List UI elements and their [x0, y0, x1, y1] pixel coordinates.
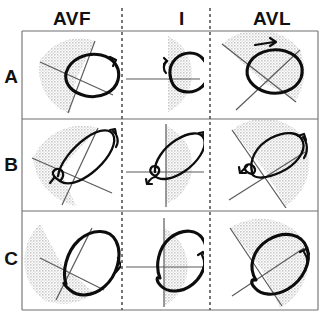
cell-b-avf [32, 126, 118, 206]
knot-arrow-b-i [148, 177, 156, 183]
cell-a-i [126, 36, 208, 112]
column-header-i: I [179, 8, 185, 29]
cell-b-i [126, 124, 208, 207]
cell-b-avl [229, 119, 309, 208]
cell-c-avf [24, 224, 121, 304]
rotation-arrow-c-i [202, 255, 204, 272]
cell-a-avf [39, 38, 119, 113]
cell-c-i [126, 218, 207, 308]
rotation-arrowhead-a-i [164, 58, 167, 64]
column-header-avf: AVF [53, 8, 91, 29]
row-label-a: A [4, 66, 18, 87]
cell-c-avl [230, 219, 309, 308]
cell-a-avl [222, 30, 304, 110]
row-label-c: C [4, 248, 18, 269]
column-header-avl: AVL [253, 8, 291, 29]
row-label-b: B [4, 154, 18, 175]
figure-panel: AVF I AVL A B C [0, 0, 325, 323]
